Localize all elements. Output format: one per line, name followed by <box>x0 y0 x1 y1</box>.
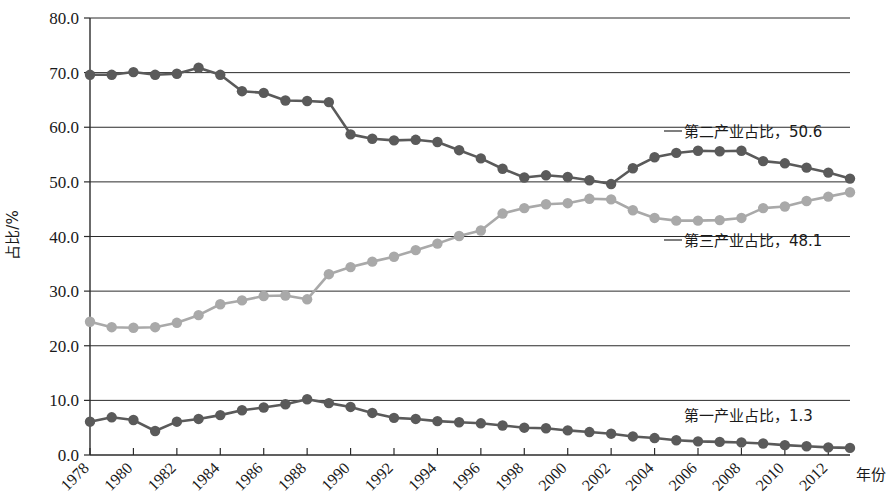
data-point <box>150 322 160 332</box>
data-point <box>367 134 377 144</box>
series-line-2 <box>90 192 850 327</box>
x-tick-labels: 1978198019821984198619881990199219941996… <box>57 459 830 494</box>
industry-share-line-chart: 0.010.020.030.040.050.060.070.080.0 1978… <box>0 0 886 502</box>
data-point <box>454 231 464 241</box>
data-point <box>345 129 355 139</box>
data-point <box>845 187 855 197</box>
gridlines <box>90 18 850 400</box>
x-tick-label: 2012 <box>796 459 831 494</box>
data-point <box>476 418 486 428</box>
data-point <box>280 95 290 105</box>
data-point <box>715 437 725 447</box>
data-point <box>411 245 421 255</box>
data-point <box>432 238 442 248</box>
x-tick-label: 1990 <box>318 459 353 494</box>
data-point <box>497 420 507 430</box>
data-point <box>193 63 203 73</box>
data-point <box>389 252 399 262</box>
data-point <box>128 415 138 425</box>
data-point <box>584 175 594 185</box>
data-point <box>107 322 117 332</box>
data-point <box>801 196 811 206</box>
y-tick-label: 40.0 <box>49 228 79 247</box>
data-point <box>476 225 486 235</box>
x-tick-label: 1996 <box>448 459 483 494</box>
data-point <box>649 152 659 162</box>
data-point <box>367 408 377 418</box>
data-point <box>85 317 95 327</box>
x-axis <box>90 448 850 455</box>
x-tick-label: 2008 <box>709 459 744 494</box>
data-point <box>302 394 312 404</box>
data-point <box>150 426 160 436</box>
data-point <box>563 198 573 208</box>
x-axis-title: 年份 <box>856 466 886 484</box>
data-point <box>541 199 551 209</box>
data-point <box>780 158 790 168</box>
y-tick-label: 50.0 <box>49 173 79 192</box>
x-tick-label: 1994 <box>405 459 440 494</box>
data-point <box>628 163 638 173</box>
y-tick-label: 30.0 <box>49 282 79 301</box>
x-tick-label: 1992 <box>361 459 396 494</box>
data-point <box>758 438 768 448</box>
data-point <box>649 213 659 223</box>
data-point <box>780 440 790 450</box>
x-tick-label: 2010 <box>752 459 787 494</box>
data-point <box>628 205 638 215</box>
x-tick-label: 1988 <box>275 459 310 494</box>
data-point <box>519 172 529 182</box>
data-point <box>259 291 269 301</box>
data-point <box>736 146 746 156</box>
data-point <box>693 215 703 225</box>
data-point <box>649 433 659 443</box>
data-point <box>172 318 182 328</box>
x-tick-label: 1980 <box>101 459 136 494</box>
y-tick-label: 80.0 <box>49 9 79 28</box>
x-tick-label: 2002 <box>579 459 614 494</box>
data-point <box>411 414 421 424</box>
data-point <box>563 172 573 182</box>
data-point <box>107 70 117 80</box>
y-tick-label: 10.0 <box>49 391 79 410</box>
data-point <box>237 86 247 96</box>
data-point <box>823 167 833 177</box>
data-point <box>215 410 225 420</box>
data-point <box>628 431 638 441</box>
data-point <box>128 323 138 333</box>
data-point <box>584 427 594 437</box>
data-point <box>780 201 790 211</box>
y-tick-label: 70.0 <box>49 64 79 83</box>
data-point <box>150 70 160 80</box>
data-point <box>432 137 442 147</box>
data-point <box>715 215 725 225</box>
data-point <box>411 135 421 145</box>
x-tick-label: 2000 <box>535 459 570 494</box>
data-point <box>671 148 681 158</box>
annotation-label: 第二产业占比，50.6 <box>684 123 822 141</box>
data-point <box>302 294 312 304</box>
data-point <box>259 88 269 98</box>
data-point <box>128 67 138 77</box>
x-tick-label: 2004 <box>622 459 657 494</box>
data-point <box>823 442 833 452</box>
x-tick-label: 2006 <box>665 459 700 494</box>
series-markers <box>85 63 855 454</box>
data-point <box>736 437 746 447</box>
data-point <box>85 70 95 80</box>
data-point <box>476 153 486 163</box>
data-point <box>845 173 855 183</box>
x-tick-label: 1986 <box>231 459 266 494</box>
chart-canvas: 0.010.020.030.040.050.060.070.080.0 1978… <box>0 0 886 502</box>
data-point <box>280 399 290 409</box>
data-point <box>715 146 725 156</box>
data-point <box>693 436 703 446</box>
data-point <box>541 423 551 433</box>
data-point <box>801 441 811 451</box>
data-point <box>606 428 616 438</box>
x-tick-label: 1982 <box>144 459 179 494</box>
data-point <box>193 310 203 320</box>
data-point <box>454 145 464 155</box>
data-point <box>85 416 95 426</box>
y-tick-labels: 0.010.020.030.040.050.060.070.080.0 <box>49 9 79 465</box>
